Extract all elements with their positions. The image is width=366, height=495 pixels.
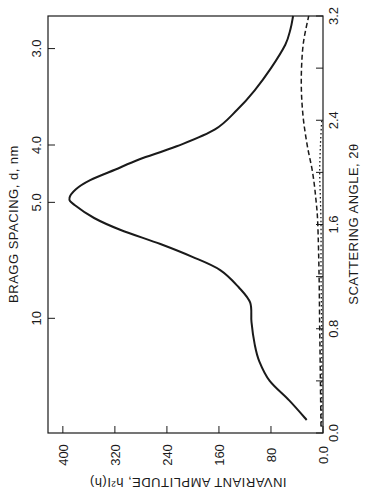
x-axis-title: SCATTERING ANGLE, 2θ: [346, 143, 361, 304]
y-tick-label: 80: [264, 448, 279, 462]
secondary-tick-label: 3.0: [29, 40, 44, 58]
plot-frame: [48, 16, 323, 433]
series-dashed: [301, 16, 321, 427]
chart: 0.00.81.62.43.2400320240160800.03.04.05.…: [0, 0, 366, 495]
axis-ticks: [48, 16, 323, 433]
y-tick-label: 160: [212, 444, 227, 466]
secondary-tick-label: 5.0: [29, 193, 44, 211]
y-axis-title: INVARIANT AMPLITUDE, h²I(h): [89, 475, 286, 490]
series-solid: [69, 16, 306, 420]
x-tick-label: 3.2: [326, 7, 341, 25]
x-tick-label: 1.6: [326, 215, 341, 233]
tick-labels: 0.00.81.62.43.2400320240160800.03.04.05.…: [29, 7, 341, 466]
y-tick-label: 400: [56, 444, 71, 466]
data-series: [69, 16, 321, 427]
x-tick-label: 0.8: [326, 320, 341, 338]
y-tick-label: 240: [160, 444, 175, 466]
secondary-tick-label: 4.0: [29, 136, 44, 154]
x-tick-label: 0.0: [326, 424, 341, 442]
secondary-tick-label: 10: [29, 311, 44, 325]
y-tick-label: 320: [108, 444, 123, 466]
x-tick-label: 2.4: [326, 111, 341, 129]
y-tick-label: 0.0: [316, 446, 331, 464]
secondary-axis-title: BRAGG SPACING, d, nm: [6, 145, 21, 303]
